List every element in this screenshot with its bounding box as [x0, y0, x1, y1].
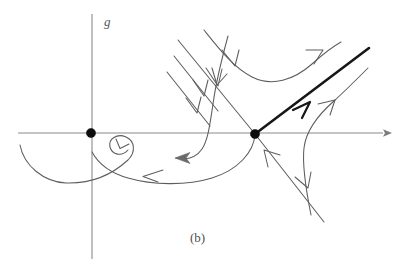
parallel-incoming-2-arrowhead: [193, 80, 208, 96]
vertical-axis-label: g: [104, 15, 111, 28]
trajectory-spiral-loop: [20, 136, 133, 183]
trajectory-lower-right-incoming: [255, 134, 324, 222]
trajectory-parallel-incoming-1: [178, 40, 255, 134]
phase-portrait-figure: g (b): [0, 0, 405, 272]
parallel-incoming-1-path: [178, 40, 255, 134]
heteroclinic-lower-arrowhead: [143, 170, 163, 182]
spiral-loop-arrowhead: [116, 139, 129, 149]
upper-u-curve-arrowhead-in: [222, 50, 239, 66]
upper-u-curve-path: [204, 30, 341, 82]
horizontal-axis-arrowhead: [383, 129, 392, 137]
trajectory-parallel-incoming-2: [174, 56, 218, 111]
fixed-point-spiral-sink: [86, 128, 95, 137]
spiral-loop-path: [20, 136, 133, 183]
trajectory-heteroclinic-lower: [92, 134, 255, 184]
parallel-incoming-3-path: [167, 72, 210, 126]
lower-right-incoming-arrowhead: [264, 150, 280, 167]
fixed-point-saddle: [250, 129, 259, 138]
axes-group: [18, 14, 392, 259]
trajectory-right-s-curve: [295, 68, 368, 215]
trajectory-unstable-manifold-bold: [255, 48, 369, 134]
unstable-manifold-bold-path: [255, 48, 369, 134]
trajectory-stable-left-branch: [175, 36, 228, 164]
heteroclinic-lower-path: [92, 134, 255, 184]
trajectory-parallel-incoming-3: [167, 72, 210, 126]
panel-caption: (b): [190, 231, 205, 244]
lower-right-incoming-path: [255, 134, 324, 222]
right-s-curve-arrowhead-lower: [295, 172, 311, 188]
trajectory-upper-u-curve: [204, 30, 341, 82]
stable-left-branch-path: [176, 36, 228, 159]
